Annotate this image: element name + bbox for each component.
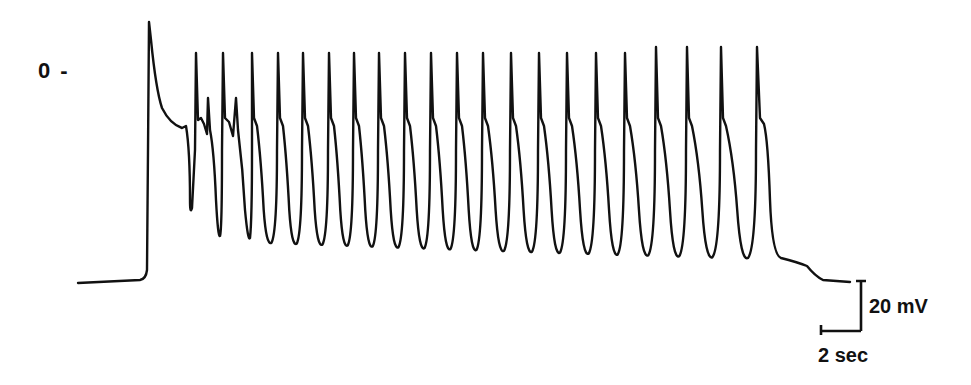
time-scale-bar	[821, 325, 861, 335]
membrane-potential-trace	[78, 22, 850, 283]
voltage-scale-label: 20 mV	[869, 295, 928, 318]
scale-bar	[821, 281, 866, 335]
voltage-trace-plot	[0, 0, 971, 385]
time-scale-label: 2 sec	[818, 344, 868, 367]
voltage-scale-bar	[856, 281, 866, 331]
zero-mv-reference-label: 0 -	[38, 58, 70, 84]
voltage-trace-figure: 0 - 20 mV 2 sec	[0, 0, 971, 385]
